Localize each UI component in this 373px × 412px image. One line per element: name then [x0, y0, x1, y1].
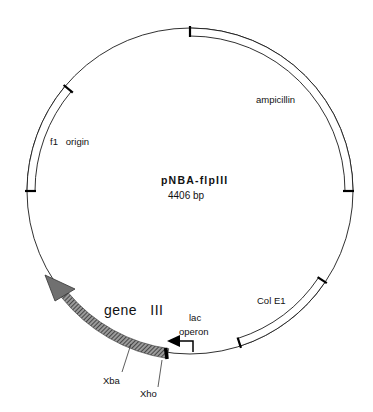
- col-e1-band: [238, 277, 327, 348]
- xba-label: Xba: [103, 376, 120, 386]
- xho-label: Xho: [140, 389, 157, 399]
- xba-leader-line: [122, 344, 131, 372]
- f1-origin-label: f1 origin: [50, 137, 89, 147]
- plasmid-size: 4406 bp: [168, 191, 204, 201]
- plasmid-map: [0, 0, 373, 412]
- lac-label: lac: [189, 313, 201, 323]
- gene-iii-label: gene III: [104, 303, 163, 317]
- col-e1-label: Col E1: [257, 296, 286, 306]
- ampicillin-band: [190, 26, 354, 191]
- plasmid-name: pNBA-flpIII: [161, 175, 228, 186]
- ampicillin-label: ampicillin: [256, 95, 295, 105]
- lac-promoter-arrow: [167, 335, 193, 352]
- xho-leader-line: [158, 360, 162, 387]
- operon-label: operon: [179, 327, 209, 337]
